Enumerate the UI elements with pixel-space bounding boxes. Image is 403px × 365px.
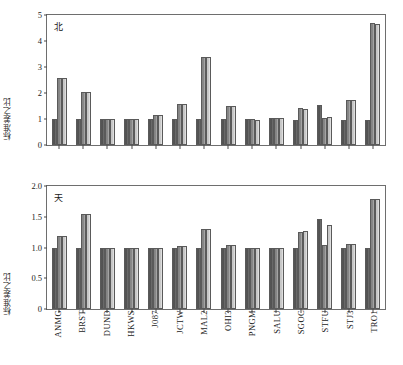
bar-group: [240, 186, 264, 309]
bar-DUND-series-3-light: [110, 119, 115, 145]
bar-ANMG-series-3-light: [62, 78, 67, 145]
y-axis-tick: 1: [38, 114, 47, 124]
plot-area-top: 北 012345: [46, 14, 386, 146]
bar-MAL2-series-3-light: [206, 57, 211, 145]
bar-OHI3-series-3-light: [231, 106, 236, 145]
x-axis-label-SALU: SALU: [272, 310, 282, 334]
y-axis-tick: 5: [38, 10, 47, 20]
x-axis-label-STFU: STFU: [320, 310, 330, 332]
x-axis-label-J087: J087: [150, 310, 160, 328]
bar-SGOC-series-3-light: [303, 231, 308, 309]
bar-group: [168, 15, 192, 145]
bar-group: [313, 15, 337, 145]
bar-group: [216, 15, 240, 145]
x-axis-tick: [252, 145, 253, 149]
bar-group: [144, 15, 168, 145]
bar-OHI3-series-3-light: [231, 245, 236, 309]
bar-group: [313, 186, 337, 309]
x-axis-tick: [348, 145, 349, 149]
x-axis-label-MAL2: MAL2: [199, 310, 209, 335]
bar-group: [240, 15, 264, 145]
bar-group: [361, 186, 385, 309]
x-axis-label-TRO1: TRO1: [369, 310, 379, 333]
x-axis-tick: [131, 145, 132, 149]
x-axis-tick: [203, 145, 204, 149]
bar-PNGM-series-3-light: [255, 248, 260, 310]
y-axis-tick: 2.0: [31, 181, 47, 191]
x-axis-tick: [228, 145, 229, 149]
plot-area-top-wrapper: 北 012345: [46, 14, 386, 146]
x-axis-category-labels: ANMGBRSTDUNDHKWSJ087JCTWMAL2OHI3PNGMSALU…: [46, 310, 386, 365]
plot-area-bottom-wrapper: 天 00.51.01.52.0: [46, 185, 386, 310]
bar-J087-series-3-light: [158, 115, 163, 145]
bar-STJ3-series-3-light: [351, 244, 356, 309]
bar-STFU-series-3-light: [327, 117, 332, 145]
x-axis-label-BRST: BRST: [77, 310, 87, 333]
bar-HKWS-series-3-light: [134, 119, 139, 145]
bar-JCTW-series-3-light: [182, 246, 187, 309]
bar-group: [192, 15, 216, 145]
y-axis-tick: 0: [38, 140, 47, 150]
bar-group: [337, 186, 361, 309]
bar-group: [144, 186, 168, 309]
bar-STFU-series-3-light: [327, 225, 332, 309]
bar-group: [95, 186, 119, 309]
y-axis-tick: 3: [38, 62, 47, 72]
bar-MAL2-series-3-light: [206, 229, 211, 309]
bar-SALU-series-3-light: [279, 248, 284, 310]
bar-group: [264, 15, 288, 145]
bar-group: [264, 186, 288, 309]
figure-root: 标准差之比 北 012345 标准差之比 天 00.51.01.52.0 ANM…: [0, 0, 403, 365]
bar-group: [47, 186, 71, 309]
bar-SGOC-series-3-light: [303, 109, 308, 145]
bar-group: [337, 15, 361, 145]
bar-group: [119, 15, 143, 145]
x-axis-tick: [179, 145, 180, 149]
bar-group: [168, 186, 192, 309]
bar-group: [288, 15, 312, 145]
x-axis-tick: [107, 145, 108, 149]
y-axis-tick: 2: [38, 88, 47, 98]
bar-group: [71, 15, 95, 145]
y-axis-tick: 1.5: [31, 212, 47, 222]
x-axis-tick: [324, 145, 325, 149]
x-axis-tick: [83, 145, 84, 149]
plot-area-bottom: 天 00.51.01.52.0: [46, 185, 386, 310]
x-axis-label-HKWS: HKWS: [126, 310, 136, 337]
bar-STJ3-series-3-light: [351, 100, 356, 146]
x-axis-label-DUND: DUND: [102, 310, 112, 336]
x-axis-tick: [300, 145, 301, 149]
bar-group: [192, 186, 216, 309]
y-axis-tick: 1.0: [31, 243, 47, 253]
bar-group: [361, 15, 385, 145]
x-axis-tick: [59, 145, 60, 149]
bar-HKWS-series-3-light: [134, 248, 139, 310]
x-axis-label-STJ3: STJ3: [345, 310, 355, 329]
bar-J087-series-3-light: [158, 248, 163, 310]
x-axis-tick: [276, 145, 277, 149]
bar-group: [71, 186, 95, 309]
bar-group: [47, 15, 71, 145]
bar-group: [119, 186, 143, 309]
x-axis-tick: [155, 145, 156, 149]
y-axis-tick: 0.5: [31, 273, 47, 283]
chart-panel-top: 标准差之比 北 012345: [0, 0, 403, 175]
x-axis-label-SGOC: SGOC: [296, 310, 306, 334]
bar-BRST-series-3-light: [86, 92, 91, 145]
bar-BRST-series-3-light: [86, 214, 91, 309]
bar-SALU-series-3-light: [279, 118, 284, 145]
bar-group: [288, 186, 312, 309]
bar-TRO1-series-3-light: [375, 24, 380, 145]
x-axis-label-ANMG: ANMG: [53, 310, 63, 338]
bar-JCTW-series-3-light: [182, 104, 187, 145]
bar-group: [216, 186, 240, 309]
bar-TRO1-series-3-light: [375, 199, 380, 309]
y-axis-label-bottom: 标准差之比: [2, 210, 13, 315]
x-axis-label-JCTW: JCTW: [175, 310, 185, 334]
y-axis-label-top: 标准差之比: [2, 40, 13, 140]
y-axis-tick: 4: [38, 36, 47, 46]
x-axis-tick: [372, 145, 373, 149]
x-axis-label-OHI3: OHI3: [223, 310, 233, 331]
x-axis-label-PNGM: PNGM: [247, 310, 257, 336]
bar-group: [95, 15, 119, 145]
